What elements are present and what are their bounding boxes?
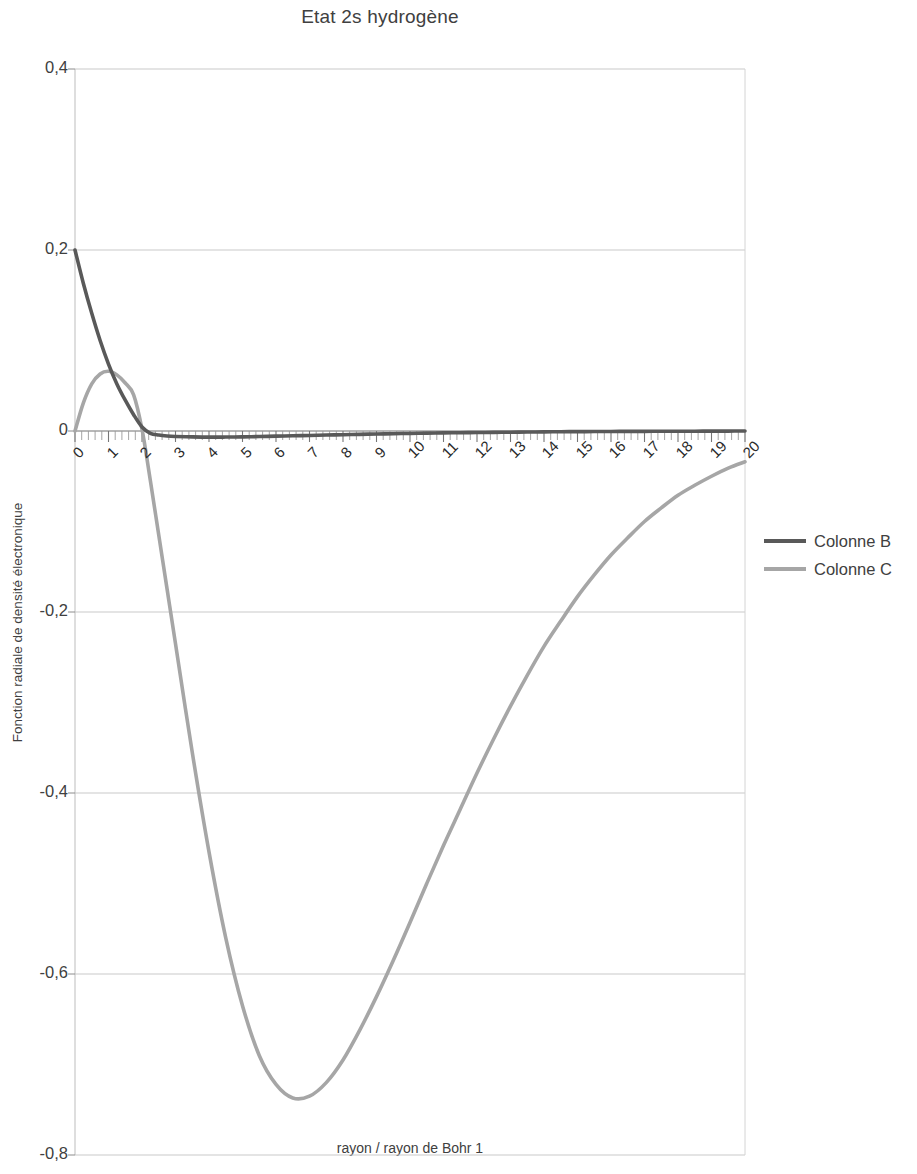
legend-item[interactable]: Colonne B xyxy=(764,527,914,555)
x-tick-label: 8 xyxy=(337,443,355,461)
legend-item[interactable]: Colonne C xyxy=(764,555,914,583)
x-tick-label: 11 xyxy=(438,438,461,461)
x-tick-label: 3 xyxy=(170,443,188,461)
x-tick-label: 20 xyxy=(739,437,763,461)
chart-legend: Colonne BColonne C xyxy=(764,527,914,583)
x-axis-tick-labels: 01234567891011121314151617181920 xyxy=(0,0,917,1174)
x-tick-label: 2 xyxy=(136,443,154,461)
x-tick-label: 10 xyxy=(404,437,428,461)
x-tick-label: 19 xyxy=(706,437,730,461)
chart-container: Etat 2s hydrogène Fonction radiale de de… xyxy=(0,0,917,1174)
legend-label: Colonne B xyxy=(814,532,891,551)
x-tick-label: 18 xyxy=(672,437,696,461)
x-tick-label: 9 xyxy=(371,443,389,461)
x-tick-label: 14 xyxy=(538,437,562,461)
x-tick-label: 1 xyxy=(103,443,121,461)
x-tick-label: 4 xyxy=(203,443,221,461)
x-tick-label: 7 xyxy=(304,443,322,461)
x-tick-label: 15 xyxy=(572,437,596,461)
x-tick-label: 17 xyxy=(639,437,663,461)
x-tick-label: 16 xyxy=(605,437,629,461)
x-tick-label: 6 xyxy=(270,443,288,461)
x-tick-label: 13 xyxy=(505,437,529,461)
x-tick-label: 5 xyxy=(237,443,255,461)
x-tick-label: 0 xyxy=(69,443,87,461)
x-tick-label: 12 xyxy=(471,437,495,461)
legend-label: Colonne C xyxy=(814,560,892,579)
legend-color-swatch xyxy=(764,539,806,543)
legend-color-swatch xyxy=(764,567,806,571)
